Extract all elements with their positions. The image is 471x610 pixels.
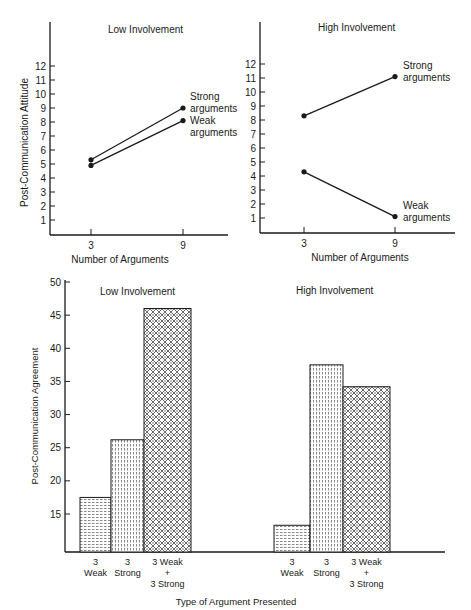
y-tick-label: 15 <box>50 509 62 520</box>
series-label: arguments <box>403 72 450 83</box>
y-tick-label: 7 <box>40 131 46 142</box>
high-involvement-line-chart: 12345678910111239High InvolvementNumber … <box>245 22 455 263</box>
bar-category-label: 3 <box>93 557 98 567</box>
series-label: arguments <box>190 103 237 114</box>
data-point <box>392 214 397 219</box>
y-tick-label: 7 <box>250 129 256 140</box>
bar <box>343 387 390 552</box>
bar <box>274 525 310 552</box>
bar <box>310 365 343 552</box>
bar-category-label: Weak <box>84 568 107 578</box>
bar-category-label: 3 <box>125 557 130 567</box>
y-tick-label: 9 <box>250 101 256 112</box>
data-point <box>180 105 185 110</box>
series-label: Strong <box>190 91 219 102</box>
y-axis-label: Post-Communication Agreement <box>29 347 40 484</box>
x-tick-label: 3 <box>88 240 94 251</box>
y-tick-label: 5 <box>40 159 46 170</box>
y-tick-label: 4 <box>250 171 256 182</box>
argument-type-bar-chart: 1520253035404550Post-Communication Agree… <box>29 277 445 608</box>
y-tick-label: 12 <box>35 61 47 72</box>
y-tick-label: 2 <box>250 199 256 210</box>
y-tick-label: 12 <box>245 59 257 70</box>
data-point <box>392 74 397 79</box>
bar-category-label: 3 Weak <box>351 557 382 567</box>
bar <box>111 440 144 552</box>
series-line <box>304 77 395 116</box>
y-tick-label: 10 <box>35 89 47 100</box>
y-tick-label: 35 <box>50 376 62 387</box>
x-tick-label: 9 <box>180 240 186 251</box>
y-tick-label: 2 <box>40 201 46 212</box>
y-tick-label: 45 <box>50 310 62 321</box>
chart-title: Low Involvement <box>108 24 183 35</box>
y-axis-label: Post-Communication Attitude <box>19 78 30 207</box>
y-tick-label: 4 <box>40 173 46 184</box>
y-tick-label: 1 <box>40 215 46 226</box>
x-axis-label: Type of Argument Presented <box>176 596 296 607</box>
group-title: Low Involvement <box>100 286 175 297</box>
y-tick-label: 8 <box>250 115 256 126</box>
y-tick-label: 3 <box>250 185 256 196</box>
bar-category-label: Strong <box>114 568 141 578</box>
bar-category-label: 3 <box>289 557 294 567</box>
series-line <box>91 108 183 160</box>
data-point <box>301 113 306 118</box>
y-tick-label: 6 <box>40 145 46 156</box>
bar-category-label: Strong <box>313 568 340 578</box>
x-tick-label: 3 <box>301 238 307 249</box>
chart-title: High Involvement <box>318 22 395 33</box>
bar-category-label: 3 Strong <box>349 579 383 589</box>
data-point <box>88 157 93 162</box>
series-line <box>91 121 183 166</box>
bar-category-label: 3 Strong <box>150 579 184 589</box>
y-tick-label: 5 <box>250 157 256 168</box>
data-point <box>301 169 306 174</box>
low-involvement-line-chart: 12345678910111239Low InvolvementNumber o… <box>19 22 237 265</box>
data-point <box>180 118 185 123</box>
bar <box>80 497 111 552</box>
y-tick-label: 3 <box>40 187 46 198</box>
y-tick-label: 20 <box>50 475 62 486</box>
y-tick-label: 10 <box>245 87 257 98</box>
y-tick-label: 8 <box>40 117 46 128</box>
y-tick-label: 11 <box>36 75 47 86</box>
x-axis-label: Number of Arguments <box>311 252 408 263</box>
y-tick-label: 30 <box>50 409 62 420</box>
series-line <box>304 172 395 217</box>
x-tick-label: 9 <box>392 238 398 249</box>
series-label: Weak <box>403 200 429 211</box>
y-tick-label: 40 <box>50 343 62 354</box>
y-tick-label: 1 <box>250 213 256 224</box>
series-label: arguments <box>190 127 237 138</box>
y-tick-label: 6 <box>250 143 256 154</box>
y-tick-label: 9 <box>40 103 46 114</box>
y-tick-label: 50 <box>50 277 62 288</box>
bar-category-label: 3 Weak <box>152 557 183 567</box>
bar-category-label: Weak <box>281 568 304 578</box>
x-axis-label: Number of Arguments <box>71 254 168 265</box>
bar-category-label: + <box>364 568 369 578</box>
bar-category-label: 3 <box>324 557 329 567</box>
series-label: arguments <box>403 212 450 223</box>
y-tick-label: 25 <box>50 442 62 453</box>
y-tick-label: 11 <box>246 73 257 84</box>
series-label: Weak <box>190 115 216 126</box>
series-label: Strong <box>403 60 432 71</box>
group-title: High Involvement <box>296 285 373 296</box>
figure-canvas: 12345678910111239Low InvolvementNumber o… <box>0 0 471 610</box>
data-point <box>88 163 93 168</box>
bar-category-label: + <box>165 568 170 578</box>
bar <box>144 309 191 552</box>
